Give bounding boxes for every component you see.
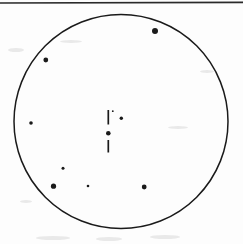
star-point-p9 bbox=[142, 185, 147, 190]
star-point-p1 bbox=[152, 28, 158, 34]
star-point-p7 bbox=[51, 184, 56, 189]
star-point-p8 bbox=[87, 185, 90, 188]
figure-root bbox=[0, 0, 243, 244]
star-point-p5 bbox=[112, 110, 114, 112]
page-background bbox=[0, 0, 243, 244]
page-top-rule bbox=[0, 2, 243, 3]
star-point-p3 bbox=[29, 121, 33, 125]
star-point-p4 bbox=[120, 117, 123, 120]
star-point-p6 bbox=[62, 167, 65, 170]
reticle-center-dot-icon bbox=[106, 131, 111, 136]
field-of-view-diagram bbox=[0, 0, 243, 244]
star-point-p2 bbox=[43, 58, 48, 63]
